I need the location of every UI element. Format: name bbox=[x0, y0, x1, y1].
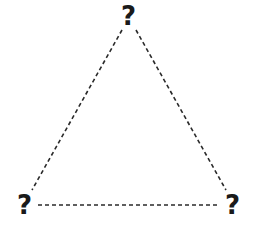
triangle-diagram bbox=[0, 0, 255, 229]
edge-top-to-bottom-left bbox=[32, 30, 122, 190]
edge-top-to-bottom-right bbox=[136, 30, 226, 190]
vertex-bottom-right-label: ? bbox=[225, 192, 240, 218]
vertex-bottom-left-label: ? bbox=[17, 192, 32, 218]
vertex-top-label: ? bbox=[121, 3, 136, 29]
